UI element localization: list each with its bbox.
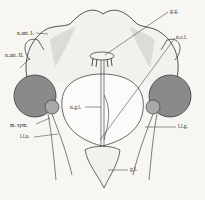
label-gg: g.g. [170, 9, 178, 15]
gland [85, 146, 120, 188]
head-capsule [26, 10, 178, 82]
label-msym: m. sym. [10, 123, 28, 129]
label-ncl: n.c.l. [176, 35, 187, 41]
label-nant1: n.ant. I. [17, 31, 34, 37]
label-lla: l.l.a. [20, 134, 30, 140]
label-ngl: n.g.l. [70, 105, 81, 111]
label-gl: g.l. [130, 167, 137, 173]
label-nant2: n.ant. II. [5, 53, 24, 59]
eye-right-inner [146, 100, 160, 114]
eye-left-inner [45, 100, 59, 114]
label-llg: l.l.g. [178, 124, 188, 130]
frontal-ganglion [90, 52, 114, 60]
